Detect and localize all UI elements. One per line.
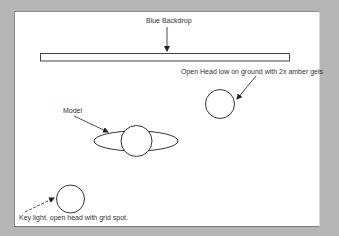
open-head-label: Open Head low on ground with 2x amber ge… [181,68,323,76]
key-light-arrow [25,198,54,212]
open-head-arrow [237,76,256,99]
key-light-label: Key light, open head with grid spot. [19,214,128,222]
backdrop-label: Blue Backdrop [146,17,192,25]
lighting-diagram [0,0,339,236]
model-icon [121,126,152,157]
open-head-light-icon [206,90,235,119]
key-light-icon [57,185,85,213]
model-arrow [74,116,108,132]
backdrop-rect [41,54,290,62]
model-label: Model [63,107,82,115]
